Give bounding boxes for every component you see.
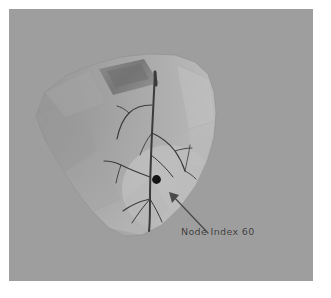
node-index-label: Node Index 60 [181, 226, 255, 237]
selected-node-marker[interactable] [152, 175, 161, 184]
render-canvas [9, 9, 313, 281]
scene-svg [9, 9, 313, 281]
tree-trunk-root [155, 72, 156, 85]
figure-root: Node Index 60 [0, 0, 331, 298]
